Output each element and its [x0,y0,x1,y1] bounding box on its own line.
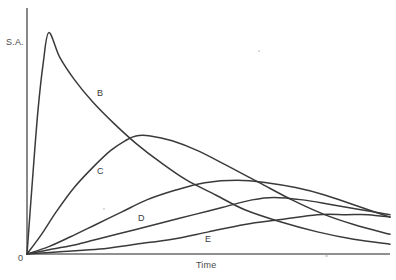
chart-figure: S.A. Time 0 B C D E [0,0,396,280]
paper-speck [325,255,328,257]
paper-speck [258,50,260,52]
curve-label-b: B [97,88,103,98]
axes-group [27,8,390,254]
origin-label: 0 [18,253,23,263]
curve-label-d: D [138,213,145,223]
curves-group [27,33,390,254]
curve-label-e: E [205,234,211,244]
curve-b [27,33,390,254]
chart-plot-area [0,0,396,280]
curve-label-c: C [97,166,104,176]
y-axis-label: S.A. [6,37,24,47]
curve-d [27,197,390,254]
paper-speck [103,208,105,210]
x-axis-label: Time [196,260,216,270]
